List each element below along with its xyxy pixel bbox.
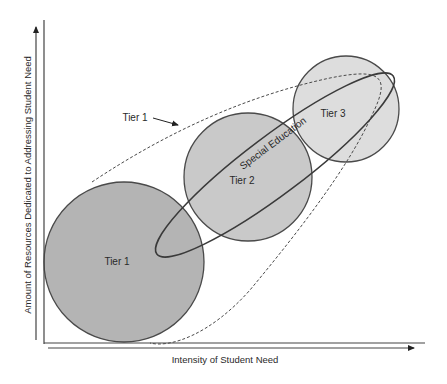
tier-1-annotation-arrow [153,118,178,125]
tier-2-label: Tier 2 [229,175,255,186]
x-axis-label: Intensity of Student Need [172,354,279,365]
rti-tier-diagram: Tier 1 Tier 2 Tier 3 Special Education T… [0,0,447,384]
tier-3-label: Tier 3 [320,108,346,119]
tier-3-circle [293,56,399,162]
x-axis [44,343,425,348]
tier-1-envelope-label: Tier 1 [122,112,148,123]
tier-1-label: Tier 1 [104,256,130,267]
y-axis [36,20,44,344]
y-axis-label: Amount of Resources Dedicated to Address… [22,56,33,314]
